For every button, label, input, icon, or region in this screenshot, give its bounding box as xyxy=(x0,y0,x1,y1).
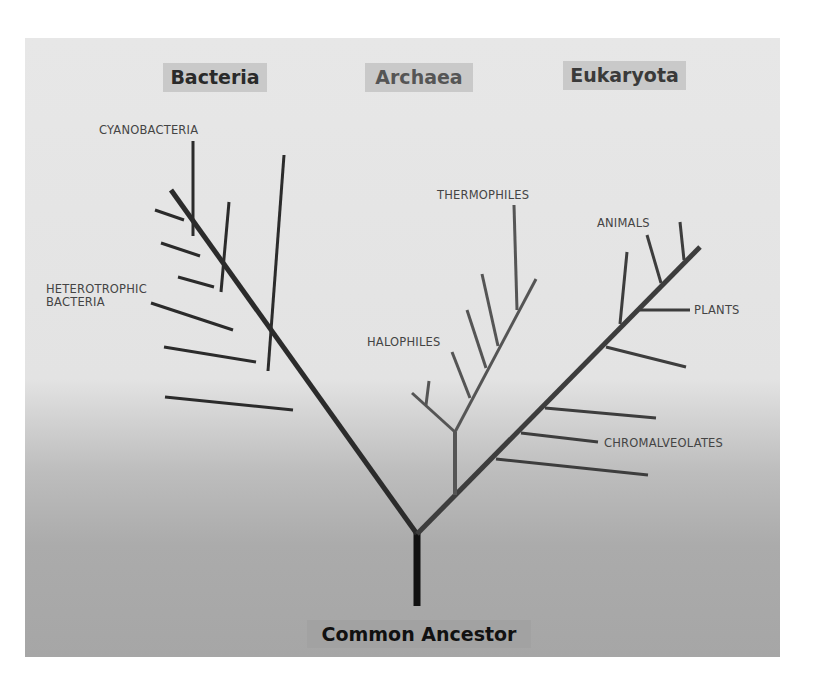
archaea-branch xyxy=(412,393,455,432)
label-animals: ANIMALS xyxy=(597,217,650,230)
eukaryota-main-stem xyxy=(417,247,700,534)
archaea-branch xyxy=(467,310,486,368)
bacteria-main-stem xyxy=(171,190,417,534)
bacteria-branch xyxy=(155,210,184,220)
domain-label-archaea: Archaea xyxy=(365,63,473,92)
bacteria-branch xyxy=(221,202,229,292)
archaea-lineage xyxy=(412,205,536,495)
eukaryota-branch xyxy=(680,222,684,260)
bacteria-branch xyxy=(165,397,293,410)
label-plants: PLANTS xyxy=(694,304,740,317)
label-thermophiles: THERMOPHILES xyxy=(437,189,529,202)
bacteria-branch xyxy=(164,347,256,362)
branch-chromalveolates xyxy=(496,459,648,475)
bacteria-branch xyxy=(178,277,214,287)
eukaryota-lineage xyxy=(417,222,700,534)
archaea-main-branch xyxy=(455,279,536,432)
archaea-branch xyxy=(426,381,429,405)
eukaryota-branch xyxy=(620,252,627,324)
label-heterotrophic-bacteria: HETEROTROPHIC BACTERIA xyxy=(46,283,147,309)
branch-thermophiles xyxy=(514,205,517,310)
bacteria-branch xyxy=(161,243,200,256)
label-halophiles: HALOPHILES xyxy=(367,336,441,349)
root-label-common-ancestor: Common Ancestor xyxy=(307,620,531,648)
domain-label-eukaryota: Eukaryota xyxy=(563,61,686,90)
branch-heterotrophic-bacteria xyxy=(151,303,233,330)
label-heterotrophic-line2: BACTERIA xyxy=(46,296,147,309)
archaea-branch xyxy=(482,274,498,346)
eukaryota-branch xyxy=(606,347,686,367)
label-cyanobacteria: CYANOBACTERIA xyxy=(99,124,198,137)
branch-chromalveolates xyxy=(545,408,656,418)
branch-chromalveolates xyxy=(521,433,598,442)
branch-halophiles xyxy=(452,352,470,398)
branch-animals xyxy=(647,235,661,283)
domain-label-bacteria: Bacteria xyxy=(163,63,267,92)
label-chromalveolates: CHROMALVEOLATES xyxy=(604,437,723,450)
